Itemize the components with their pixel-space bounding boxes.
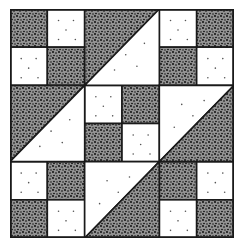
light-square [85,85,122,123]
dark-square [85,124,122,162]
dark-square [122,85,159,123]
light-square [10,47,47,85]
dark-square [159,162,196,200]
dark-square [197,200,234,238]
dark-square [10,200,47,238]
light-square [122,124,159,162]
light-square [47,200,84,238]
dark-square [47,47,84,85]
light-square [47,9,84,47]
light-square [159,200,196,238]
quilt-block [10,9,234,238]
light-square [197,162,234,200]
light-square [159,9,196,47]
light-square [10,162,47,200]
dark-square [47,162,84,200]
dark-square [10,9,47,47]
light-square [197,47,234,85]
dark-square [197,9,234,47]
dark-square [159,47,196,85]
